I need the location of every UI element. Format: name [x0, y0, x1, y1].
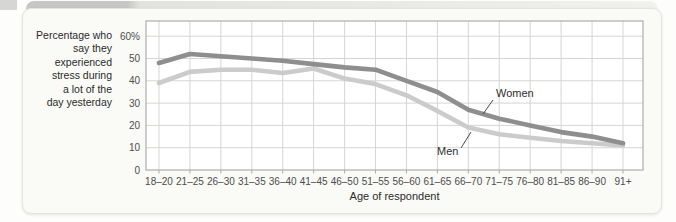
- x-tick-label: 61–65: [423, 176, 451, 187]
- x-tick-label: 18–20: [145, 176, 173, 187]
- x-axis-title: Age of respondent: [350, 190, 440, 202]
- x-tick-label: 26–30: [207, 176, 235, 187]
- x-tick-label: 91+: [615, 176, 632, 187]
- x-tick-label: 76–80: [516, 176, 544, 187]
- y-tick-label: 10: [129, 142, 141, 153]
- men-series-label: Men: [437, 145, 458, 157]
- stress-by-age-line-chart: 60%5040302010018–2021–2526–3031–3536–404…: [0, 0, 676, 222]
- y-tick-label: 0: [134, 165, 140, 176]
- x-tick-label: 66–70: [454, 176, 482, 187]
- x-tick-label: 51–55: [362, 176, 390, 187]
- x-tick-label: 36–40: [269, 176, 297, 187]
- x-tick-label: 81–85: [547, 176, 575, 187]
- x-tick-label: 21–25: [176, 176, 204, 187]
- x-tick-label: 56–60: [393, 176, 421, 187]
- x-tick-labels: 18–2021–2526–3031–3536–4041–4546–5051–55…: [145, 176, 632, 187]
- women-series-label: Women: [496, 87, 534, 99]
- x-tick-label: 71–75: [485, 176, 513, 187]
- y-tick-label: 40: [129, 75, 141, 86]
- x-tick-label: 41–45: [300, 176, 328, 187]
- y-tick-labels: 60%50403020100: [120, 31, 140, 176]
- y-tick-label: 60%: [120, 31, 140, 42]
- y-tick-label: 50: [129, 53, 141, 64]
- x-tick-label: 86–90: [578, 176, 606, 187]
- y-tick-label: 20: [129, 120, 141, 131]
- page: Percentage who say they experienced stre…: [0, 0, 676, 222]
- y-tick-label: 30: [129, 98, 141, 109]
- x-tick-label: 31–35: [238, 176, 266, 187]
- x-tick-label: 46–50: [331, 176, 359, 187]
